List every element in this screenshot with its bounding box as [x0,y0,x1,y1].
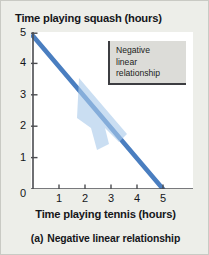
annotation-line-2: linear [116,57,182,69]
x-tick-label-1: 1 [52,192,66,204]
y-axis-ticks [31,33,38,157]
annotation-box: Negative linear relationship [108,41,186,85]
x-tick-label-3: 3 [104,192,118,204]
figure-container: Time playing squash (hours) [0,0,209,255]
x-axis-title: Time playing tennis (hours) [1,208,209,220]
caption-text: Negative linear relationship [47,233,180,244]
figure-caption: (a)Negative linear relationship [1,233,209,244]
caption-tag: (a) [31,233,43,244]
direction-arrow-icon [77,78,127,150]
y-tick-label-0: 0 [12,187,26,199]
x-tick-label-5: 5 [156,192,170,204]
y-tick-label-1: 1 [12,151,26,163]
chart-title: Time playing squash (hours) [15,12,162,24]
y-tick-label-4: 4 [12,56,26,68]
annotation-line-3: relationship [116,68,182,80]
x-tick-label-2: 2 [78,192,92,204]
y-tick-label-2: 2 [12,119,26,131]
x-tick-label-4: 4 [130,192,144,204]
y-tick-label-3: 3 [12,88,26,100]
y-tick-label-5: 5 [12,26,26,38]
annotation-line-1: Negative [116,45,182,57]
